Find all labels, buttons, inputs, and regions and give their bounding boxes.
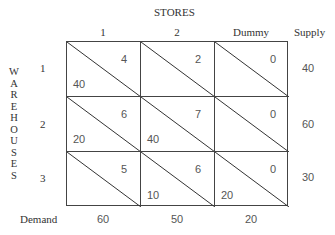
row-header-2: 2 [40, 118, 46, 130]
demand-value-dummy: 20 [214, 213, 288, 225]
allocation-value: 40 [147, 133, 159, 145]
allocation-value: 20 [73, 133, 85, 145]
column-header-1: 1 [66, 26, 140, 38]
supply-value-1: 40 [302, 62, 314, 74]
warehouses-letter: A [8, 78, 20, 90]
cost-value: 6 [195, 163, 201, 175]
warehouses-letter: E [8, 101, 20, 113]
demand-value-2: 50 [140, 213, 214, 225]
allocation-value: 40 [73, 78, 85, 90]
cost-value: 5 [121, 163, 127, 175]
column-header-dummy: Dummy [214, 26, 288, 38]
cost-value: 0 [270, 108, 276, 120]
diagonal-line [215, 97, 289, 152]
warehouses-letter: S [8, 170, 20, 182]
cell-r3-c3: 0 20 [215, 152, 289, 207]
cell-r1-c3: 0 [215, 42, 289, 97]
warehouses-letter: W [8, 66, 20, 78]
diagonal-line [141, 42, 215, 97]
row-header-1: 1 [40, 62, 46, 74]
cost-grid: 4 40 2 0 6 20 7 40 0 [66, 41, 288, 206]
diagonal-line [215, 42, 289, 97]
cell-r2-c3: 0 [215, 97, 289, 152]
supply-header: Supply [294, 26, 325, 38]
demand-label: Demand [20, 213, 57, 225]
warehouses-letter: E [8, 158, 20, 170]
allocation-value: 20 [221, 189, 233, 201]
warehouses-letter: R [8, 89, 20, 101]
warehouses-letter: U [8, 135, 20, 147]
warehouses-letter: H [8, 112, 20, 124]
cell-r1-c2: 2 [141, 42, 215, 97]
warehouses-label: W A R E H O U S E S [8, 66, 20, 181]
allocation-value: 10 [147, 189, 159, 201]
diagonal-line [67, 152, 141, 207]
cell-r2-c1: 6 20 [67, 97, 141, 152]
cell-r1-c1: 4 40 [67, 42, 141, 97]
cost-value: 0 [270, 163, 276, 175]
cost-value: 7 [195, 108, 201, 120]
supply-value-3: 30 [302, 171, 314, 183]
row-header-3: 3 [40, 172, 46, 184]
cost-value: 0 [270, 53, 276, 65]
cell-r3-c1: 5 [67, 152, 141, 207]
supply-value-2: 60 [302, 118, 314, 130]
cost-value: 2 [195, 53, 201, 65]
warehouses-letter: S [8, 147, 20, 159]
cost-value: 6 [121, 108, 127, 120]
stores-title: STORES [154, 6, 195, 18]
warehouses-letter: O [8, 124, 20, 136]
column-header-2: 2 [140, 26, 214, 38]
demand-value-1: 60 [66, 213, 140, 225]
cost-value: 4 [121, 53, 127, 65]
cell-r3-c2: 6 10 [141, 152, 215, 207]
cell-r2-c2: 7 40 [141, 97, 215, 152]
